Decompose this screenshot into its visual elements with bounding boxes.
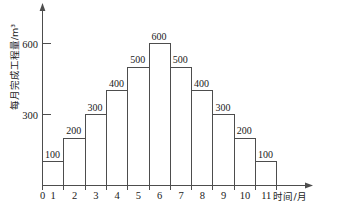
bar-value-label-9: 300 bbox=[215, 102, 230, 113]
x-tick-label-6: 6 bbox=[157, 190, 162, 201]
chart-plot-area: 600 300 100 200 300 400 500 600 500 400 … bbox=[0, 0, 340, 220]
bar-month-10 bbox=[234, 138, 255, 185]
bar-month-5 bbox=[128, 67, 149, 185]
bar-month-7 bbox=[170, 67, 191, 185]
bar-month-11 bbox=[256, 162, 277, 186]
y-tick-label-300: 300 bbox=[22, 110, 38, 121]
bar-month-8 bbox=[192, 91, 213, 186]
bar-value-label-8: 400 bbox=[194, 78, 209, 89]
y-axis-title: 每月完成工程量/m³ bbox=[7, 7, 21, 127]
bar-month-6 bbox=[149, 44, 170, 186]
bar-chart: 600 300 100 200 300 400 500 600 500 400 … bbox=[0, 0, 340, 220]
x-tick-label-2: 2 bbox=[72, 190, 77, 201]
bar-month-1 bbox=[43, 162, 64, 186]
bar-month-9 bbox=[213, 115, 234, 186]
x-tick-label-9: 9 bbox=[221, 190, 226, 201]
x-tick-label-1: 1 bbox=[51, 190, 56, 201]
bar-month-2 bbox=[64, 138, 85, 185]
bar-value-label-3: 300 bbox=[88, 102, 103, 113]
x-tick-label-10: 10 bbox=[240, 190, 251, 201]
bar-value-label-11: 100 bbox=[258, 149, 273, 160]
x-tick-label-8: 8 bbox=[200, 190, 205, 201]
y-tick-label-600: 600 bbox=[22, 39, 38, 50]
bar-month-3 bbox=[85, 115, 106, 186]
x-tick-label-4: 4 bbox=[114, 190, 120, 201]
bar-value-label-4: 400 bbox=[109, 78, 124, 89]
x-tick-label-3: 3 bbox=[93, 190, 98, 201]
bar-value-label-6: 600 bbox=[152, 31, 167, 42]
x-axis-arrow-icon bbox=[305, 183, 313, 189]
x-tick-label-11: 11 bbox=[261, 190, 271, 201]
bar-value-label-2: 200 bbox=[66, 125, 81, 136]
y-axis-arrow-icon bbox=[40, 3, 46, 11]
y-axis-title-container: 每月完成工程量/m³ bbox=[2, 0, 24, 140]
x-tick-label-0: 0 bbox=[40, 190, 45, 201]
bar-value-label-5: 500 bbox=[130, 54, 145, 65]
bar-value-label-10: 200 bbox=[237, 125, 252, 136]
bar-value-label-7: 500 bbox=[173, 54, 188, 65]
x-tick-label-5: 5 bbox=[136, 190, 141, 201]
bar-month-4 bbox=[106, 91, 127, 186]
x-axis-title: 时间/月 bbox=[273, 191, 306, 202]
x-tick-label-7: 7 bbox=[178, 190, 183, 201]
bar-value-label-1: 100 bbox=[45, 149, 60, 160]
